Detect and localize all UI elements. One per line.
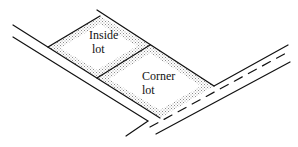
main-street-upper-edge: [214, 45, 288, 86]
inside-lot-label-line1: Inside: [89, 29, 118, 41]
corner-lot-label-line1: Corner: [142, 70, 175, 82]
inside-lot-label-line2: lot: [92, 43, 105, 55]
corner-lot-label-line2: lot: [142, 84, 155, 96]
